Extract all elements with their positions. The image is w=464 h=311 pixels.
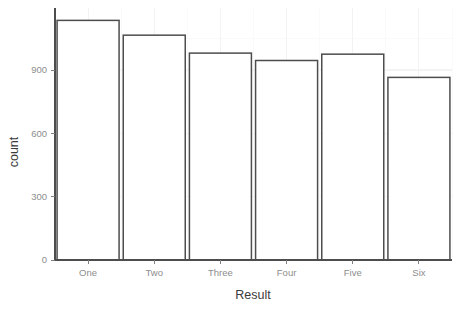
bar-four[interactable] <box>256 61 318 261</box>
x-axis-title: Result <box>235 288 271 302</box>
bar-one[interactable] <box>57 20 119 260</box>
y-tick-label: 900 <box>31 64 47 75</box>
bar-two[interactable] <box>123 35 185 260</box>
bar-three[interactable] <box>189 53 251 260</box>
x-tick-label: One <box>79 267 97 278</box>
chart-canvas: 0300600900 OneTwoThreeFourFiveSix count … <box>0 0 464 311</box>
x-tick-label: Four <box>277 267 297 278</box>
bar-six[interactable] <box>388 77 450 260</box>
x-tick-label: Two <box>146 267 163 278</box>
y-tick-label: 300 <box>31 191 47 202</box>
y-tick-label: 600 <box>31 128 47 139</box>
bar-five[interactable] <box>322 54 384 260</box>
y-tick-label: 0 <box>42 254 47 265</box>
bar-chart-figure: 0300600900 OneTwoThreeFourFiveSix count … <box>0 0 464 311</box>
y-axis-title: count <box>7 136 21 167</box>
x-tick-label: Three <box>208 267 233 278</box>
x-tick-label: Five <box>344 267 362 278</box>
x-tick-label: Six <box>412 267 425 278</box>
